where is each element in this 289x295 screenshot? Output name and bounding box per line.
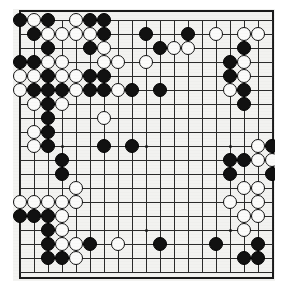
white-stone-7-8[interactable]: [97, 111, 111, 125]
white-stone-5-14[interactable]: [69, 195, 83, 209]
black-stone-4-6[interactable]: [55, 83, 69, 97]
black-stone-6-5[interactable]: [83, 69, 97, 83]
black-stone-2-2[interactable]: [27, 27, 41, 41]
black-stone-7-6[interactable]: [97, 83, 111, 97]
black-stone-6-17[interactable]: [83, 237, 97, 251]
black-stone-6-1[interactable]: [83, 13, 97, 27]
black-stone-3-5[interactable]: [41, 69, 55, 83]
white-stone-2-10[interactable]: [27, 139, 41, 153]
white-stone-5-6[interactable]: [69, 83, 83, 97]
black-stone-1-4[interactable]: [13, 55, 27, 69]
black-stone-1-1[interactable]: [13, 13, 27, 27]
white-stone-1-14[interactable]: [13, 195, 27, 209]
black-stone-4-12[interactable]: [55, 167, 69, 181]
white-stone-1-6[interactable]: [13, 83, 27, 97]
black-stone-3-8[interactable]: [41, 111, 55, 125]
white-stone-7-4[interactable]: [97, 55, 111, 69]
black-stone-9-10[interactable]: [125, 139, 139, 153]
black-stone-17-18[interactable]: [237, 251, 251, 265]
black-stone-3-15[interactable]: [41, 209, 55, 223]
white-stone-4-4[interactable]: [55, 55, 69, 69]
black-stone-3-1[interactable]: [41, 13, 55, 27]
black-stone-3-10[interactable]: [41, 139, 55, 153]
white-stone-17-5[interactable]: [237, 69, 251, 83]
black-stone-17-6[interactable]: [237, 83, 251, 97]
black-stone-3-18[interactable]: [41, 251, 55, 265]
white-stone-13-3[interactable]: [181, 41, 195, 55]
black-stone-3-7[interactable]: [41, 97, 55, 111]
white-stone-3-4[interactable]: [41, 55, 55, 69]
white-stone-5-5[interactable]: [69, 69, 83, 83]
white-stone-4-5[interactable]: [55, 69, 69, 83]
black-stone-3-9[interactable]: [41, 125, 55, 139]
black-stone-10-2[interactable]: [139, 27, 153, 41]
white-stone-8-4[interactable]: [111, 55, 125, 69]
white-stone-5-18[interactable]: [69, 251, 83, 265]
black-stone-7-5[interactable]: [97, 69, 111, 83]
black-stone-2-15[interactable]: [27, 209, 41, 223]
white-stone-3-2[interactable]: [41, 27, 55, 41]
white-stone-8-6[interactable]: [111, 83, 125, 97]
white-stone-16-14[interactable]: [223, 195, 237, 209]
black-stone-4-18[interactable]: [55, 251, 69, 265]
white-stone-4-16[interactable]: [55, 223, 69, 237]
white-stone-2-9[interactable]: [27, 125, 41, 139]
white-stone-7-3[interactable]: [97, 41, 111, 55]
white-stone-3-14[interactable]: [41, 195, 55, 209]
white-stone-18-15[interactable]: [251, 209, 265, 223]
white-stone-17-16[interactable]: [237, 223, 251, 237]
white-stone-1-5[interactable]: [13, 69, 27, 83]
white-stone-4-14[interactable]: [55, 195, 69, 209]
white-stone-8-17[interactable]: [111, 237, 125, 251]
white-stone-18-13[interactable]: [251, 181, 265, 195]
white-stone-5-13[interactable]: [69, 181, 83, 195]
black-stone-7-10[interactable]: [97, 139, 111, 153]
black-stone-7-2[interactable]: [97, 27, 111, 41]
white-stone-12-3[interactable]: [167, 41, 181, 55]
black-stone-1-15[interactable]: [13, 209, 27, 223]
white-stone-17-4[interactable]: [237, 55, 251, 69]
black-stone-4-11[interactable]: [55, 153, 69, 167]
white-stone-5-17[interactable]: [69, 237, 83, 251]
black-stone-6-6[interactable]: [83, 83, 97, 97]
black-stone-2-6[interactable]: [27, 83, 41, 97]
black-stone-17-11[interactable]: [237, 153, 251, 167]
white-stone-5-1[interactable]: [69, 13, 83, 27]
white-stone-18-2[interactable]: [251, 27, 265, 41]
black-stone-13-2[interactable]: [181, 27, 195, 41]
white-stone-4-7[interactable]: [55, 97, 69, 111]
black-stone-17-3[interactable]: [237, 41, 251, 55]
black-stone-11-6[interactable]: [153, 83, 167, 97]
white-stone-2-1[interactable]: [27, 13, 41, 27]
white-stone-5-2[interactable]: [69, 27, 83, 41]
black-stone-3-6[interactable]: [41, 83, 55, 97]
black-stone-11-17[interactable]: [153, 237, 167, 251]
white-stone-16-6[interactable]: [223, 83, 237, 97]
white-stone-4-2[interactable]: [55, 27, 69, 41]
white-stone-18-10[interactable]: [251, 139, 265, 153]
white-stone-17-13[interactable]: [237, 181, 251, 195]
black-stone-11-3[interactable]: [153, 41, 167, 55]
stones-layer[interactable]: [0, 0, 289, 295]
black-stone-15-17[interactable]: [209, 237, 223, 251]
white-stone-4-15[interactable]: [55, 209, 69, 223]
white-stone-4-17[interactable]: [55, 237, 69, 251]
white-stone-18-11[interactable]: [251, 153, 265, 167]
black-stone-18-18[interactable]: [251, 251, 265, 265]
white-stone-2-7[interactable]: [27, 97, 41, 111]
black-stone-2-4[interactable]: [27, 55, 41, 69]
white-stone-2-5[interactable]: [27, 69, 41, 83]
black-stone-3-17[interactable]: [41, 237, 55, 251]
black-stone-16-4[interactable]: [223, 55, 237, 69]
black-stone-9-6[interactable]: [125, 83, 139, 97]
black-stone-16-12[interactable]: [223, 167, 237, 181]
white-stone-2-14[interactable]: [27, 195, 41, 209]
black-stone-6-3[interactable]: [83, 41, 97, 55]
white-stone-10-4[interactable]: [139, 55, 153, 69]
black-stone-18-17[interactable]: [251, 237, 265, 251]
white-stone-15-2[interactable]: [209, 27, 223, 41]
black-stone-3-3[interactable]: [41, 41, 55, 55]
black-stone-16-11[interactable]: [223, 153, 237, 167]
black-stone-17-7[interactable]: [237, 97, 251, 111]
white-stone-6-2[interactable]: [83, 27, 97, 41]
